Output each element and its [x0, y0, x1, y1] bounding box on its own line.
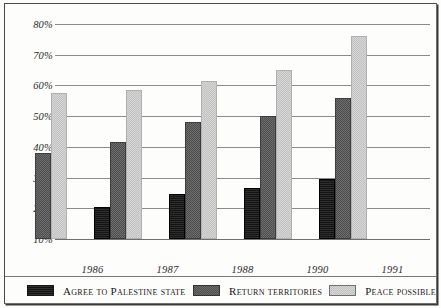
chart-frame: 80%70%60%50%40%30%20%10% 198619871988199…: [4, 3, 437, 304]
legend-item-label: Peace possible: [365, 285, 436, 297]
x-axis-tick-label: 1986: [82, 264, 104, 275]
plot-area: 80%70%60%50%40%30%20%10%: [5, 4, 438, 262]
bar: [110, 142, 126, 239]
bar: [201, 81, 217, 239]
bars-layer: [5, 4, 438, 262]
bar: [260, 116, 276, 239]
x-axis-tick-label: 1987: [157, 264, 179, 275]
bar: [276, 70, 292, 239]
legend-item: Agree to Palestine state: [27, 285, 186, 297]
x-axis-tick-label: 1990: [307, 264, 329, 275]
bar-group: [305, 4, 380, 262]
bar: [94, 207, 110, 239]
bar: [169, 194, 185, 239]
bar: [335, 98, 351, 239]
chart-figure: 80%70%60%50%40%30%20%10% 198619871988199…: [0, 0, 441, 308]
bar: [185, 122, 201, 239]
dark-gray-swatch: [193, 285, 220, 296]
legend-item: Return territories: [193, 285, 322, 297]
bar: [35, 153, 51, 239]
bar-group: [230, 4, 305, 262]
x-axis-tick-label: 1991: [382, 264, 404, 275]
legend-item: Peace possible: [329, 285, 436, 297]
bar: [244, 188, 260, 239]
bar: [319, 179, 335, 239]
legend-item-label: Return territories: [229, 285, 322, 297]
chart-legend: Agree to Palestine stateReturn territori…: [5, 276, 436, 305]
bar: [51, 93, 67, 239]
x-axis-tick-label: 1988: [232, 264, 254, 275]
light-gray-swatch: [329, 285, 356, 296]
bar: [126, 90, 142, 239]
bar-group: [5, 4, 80, 262]
legend-item-label: Agree to Palestine state: [63, 285, 186, 297]
black-swatch: [27, 285, 54, 296]
bar-group: [155, 4, 230, 262]
bar: [351, 36, 367, 239]
bar-group: [80, 4, 155, 262]
